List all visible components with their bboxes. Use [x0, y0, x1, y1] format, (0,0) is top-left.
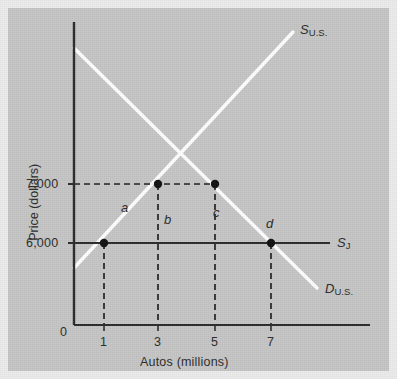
- region-label-b: b: [164, 213, 171, 226]
- origin-label: 0: [60, 326, 67, 339]
- figure-root: Price (dollars) 7,000 6,000 0 1 3 5 7 Au…: [0, 0, 397, 379]
- region-label-a: a: [121, 201, 128, 214]
- x-axis: [74, 325, 370, 331]
- supply-japan-subscript: J: [346, 240, 351, 251]
- data-point-marker: [154, 180, 162, 188]
- x-tick-1: 1: [100, 336, 107, 349]
- supply-us-symbol: S: [300, 22, 309, 37]
- supply-us-label: SU.S.: [300, 23, 328, 38]
- supply-japan-label: SJ: [337, 236, 351, 251]
- demand-us-curve: [74, 48, 317, 288]
- region-label-d: d: [266, 217, 273, 230]
- data-point-marker: [267, 239, 275, 247]
- x-tick-5: 5: [211, 336, 218, 349]
- y-tick-7000: 7,000: [26, 178, 58, 191]
- demand-us-symbol: D: [325, 281, 334, 296]
- region-label-c: c: [213, 206, 220, 219]
- supply-us-subscript: U.S.: [309, 27, 328, 38]
- x-axis-title: Autos (millions): [140, 356, 229, 369]
- x-tick-7: 7: [267, 336, 274, 349]
- chart-canvas: [0, 0, 397, 379]
- supply-japan-symbol: S: [337, 235, 346, 250]
- y-axis: [68, 22, 74, 325]
- data-point-marker: [211, 180, 219, 188]
- y-tick-6000: 6,000: [26, 237, 58, 250]
- demand-us-label: DU.S.: [325, 282, 353, 297]
- data-point-marker: [100, 239, 108, 247]
- demand-us-subscript: U.S.: [334, 286, 353, 297]
- x-tick-3: 3: [154, 336, 161, 349]
